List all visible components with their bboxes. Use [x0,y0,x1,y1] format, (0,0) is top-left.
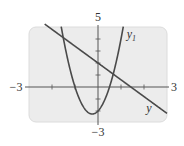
series-label-y2: y [145,101,152,115]
y-min-label: −3 [92,125,105,139]
x-min-label: −3 [10,80,23,94]
x-max-label: 3 [171,80,177,94]
function-graph: 5 −3 −3 3 y1y [0,0,184,146]
y-max-label: 5 [95,10,101,24]
